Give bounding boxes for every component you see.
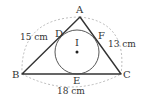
point-label-c: C xyxy=(123,69,131,80)
point-label-b: B xyxy=(12,69,19,80)
point-label-d: D xyxy=(55,28,63,39)
triangle-abc xyxy=(22,17,121,74)
point-label-f: F xyxy=(98,30,105,41)
side-label-bc: 18 cm xyxy=(57,86,85,96)
point-label-i: I xyxy=(75,37,79,48)
side-label-ac: 13 cm xyxy=(108,39,136,49)
point-label-a: A xyxy=(75,4,84,15)
side-label-ab: 15 cm xyxy=(20,32,48,42)
incenter-dot xyxy=(76,51,79,54)
incircle-diagram: I A B C D F E 15 cm 13 cm 18 cm xyxy=(0,0,145,109)
point-label-e: E xyxy=(73,75,80,86)
